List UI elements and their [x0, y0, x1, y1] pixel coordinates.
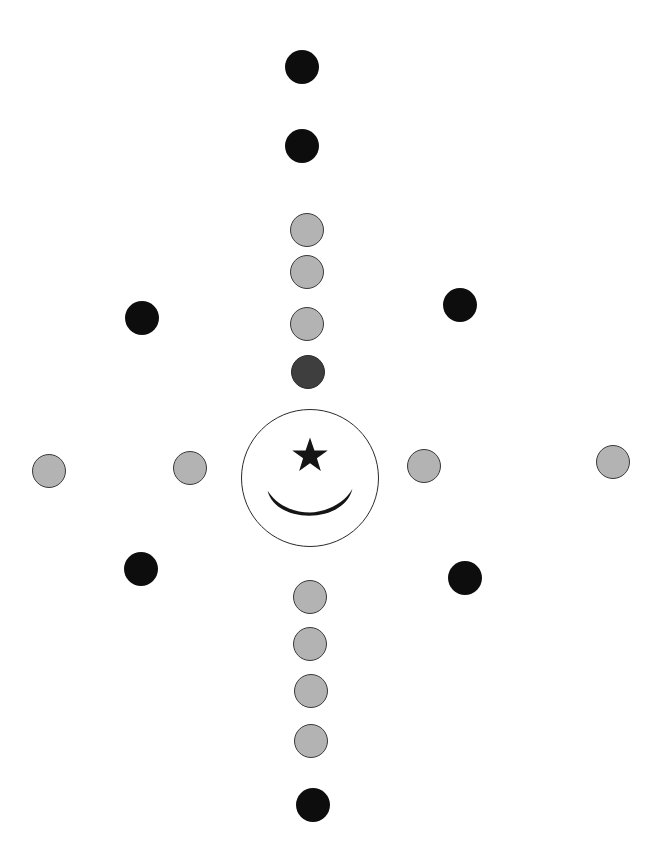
dot-far-right [596, 445, 630, 479]
dot-top-2 [285, 129, 319, 163]
central-emblem [241, 409, 379, 547]
dot-bottom-3 [294, 674, 328, 708]
dot-bottom-4 [294, 724, 328, 758]
dot-top-1 [285, 50, 319, 84]
dot-bottom-2 [293, 627, 327, 661]
dot-top-6 [291, 355, 325, 389]
emblem-graphic [242, 410, 378, 546]
dot-near-left [173, 451, 207, 485]
dot-lower-left [124, 552, 158, 586]
dot-top-4 [290, 255, 324, 289]
dot-lower-right [448, 561, 482, 595]
crescent-icon [268, 489, 353, 516]
star-icon [292, 438, 327, 472]
dot-near-right [407, 449, 441, 483]
dot-far-left [32, 454, 66, 488]
dot-upper-right [443, 288, 477, 322]
dot-upper-left [125, 301, 159, 335]
dot-bottom-1 [293, 580, 327, 614]
dot-bottom-5 [296, 788, 330, 822]
dot-top-3 [290, 213, 324, 247]
dot-top-5 [290, 307, 324, 341]
